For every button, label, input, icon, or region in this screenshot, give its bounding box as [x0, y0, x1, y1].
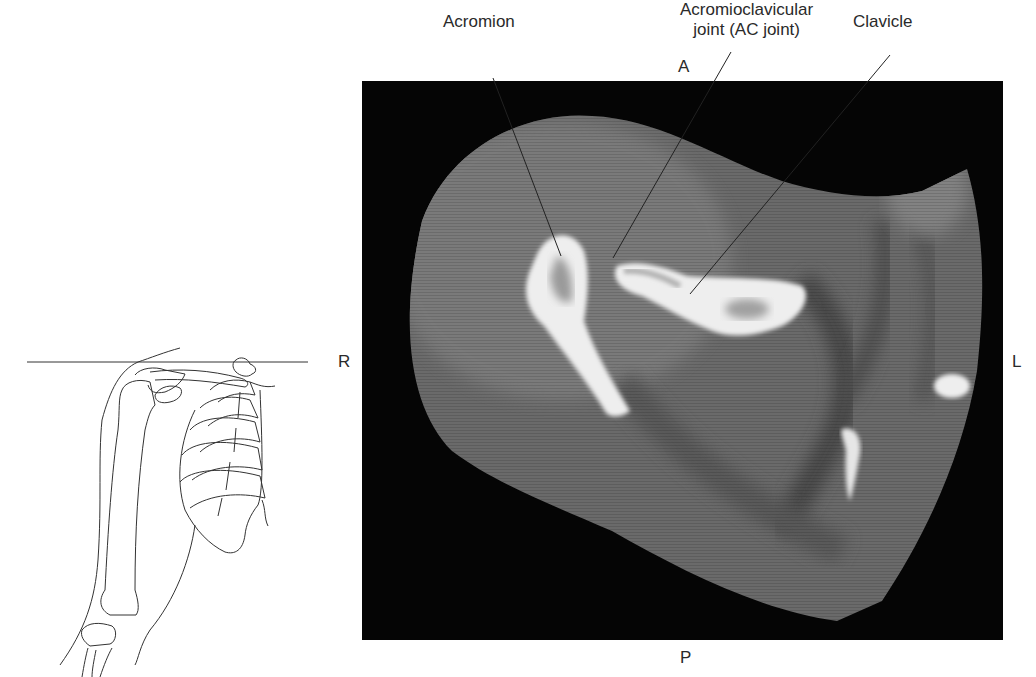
arm-skin-inner	[135, 525, 195, 665]
forearm-bone-3	[92, 650, 96, 677]
orientation-posterior: P	[680, 648, 691, 668]
costal-cartilage	[218, 392, 240, 516]
radius-ulna	[81, 623, 115, 646]
neck-line	[250, 382, 275, 387]
manubrium	[233, 358, 256, 376]
label-ac-joint-line2: joint (AC joint)	[680, 20, 813, 40]
ct-rib-lateral	[934, 374, 970, 398]
orientation-right: R	[338, 352, 350, 372]
clavicle-drawing	[150, 370, 248, 387]
label-ac-joint: Acromioclavicular joint (AC joint)	[680, 0, 813, 40]
ribcage-right-edge	[262, 500, 268, 526]
forearm-bone-2	[100, 648, 112, 677]
orientation-anterior: A	[678, 57, 689, 77]
ribcage-outline	[180, 390, 262, 553]
rib-3	[190, 418, 260, 452]
humerus	[101, 380, 155, 615]
orientation-left: L	[1012, 352, 1021, 372]
rib-5	[180, 470, 265, 508]
ct-scan-image	[362, 81, 1003, 640]
label-ac-joint-line1: Acromioclavicular	[680, 0, 813, 20]
rib-4	[182, 442, 262, 480]
coracoid	[155, 386, 182, 403]
forearm-bone-1	[82, 648, 88, 677]
skeleton-reference-drawing	[0, 330, 330, 677]
rib-2	[200, 397, 258, 426]
label-acromion: Acromion	[443, 12, 515, 32]
label-clavicle: Clavicle	[853, 12, 913, 32]
ct-soft-tissue	[362, 81, 1003, 640]
